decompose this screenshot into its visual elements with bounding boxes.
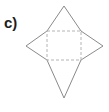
figure-container: c) [0, 0, 109, 112]
four-pointed-star-outline-shape [26, 6, 103, 98]
geometry-net-diagram [0, 0, 109, 112]
